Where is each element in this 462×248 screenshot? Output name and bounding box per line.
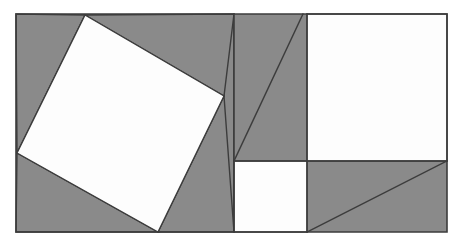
right-square-a-squared bbox=[234, 161, 307, 232]
pythagorean-proof-figure bbox=[0, 0, 462, 248]
right-panel bbox=[234, 14, 447, 232]
right-square-b-squared bbox=[307, 14, 447, 161]
left-panel bbox=[16, 14, 234, 232]
geometry-diagram-canvas bbox=[0, 0, 462, 248]
